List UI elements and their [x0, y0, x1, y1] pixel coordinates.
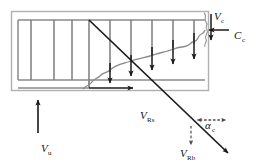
label-cc: C c: [234, 29, 245, 44]
label-vrb: V Rb: [180, 147, 196, 162]
label-alpha-c-subscript: c: [212, 126, 215, 134]
free-body-diagram-figure: V c C c V u V Rs V Rb α c: [0, 0, 258, 162]
label-alpha-c-symbol: α: [205, 119, 211, 131]
diagonal-crack-plane: [89, 20, 228, 153]
label-cc-symbol: C: [234, 29, 242, 41]
label-cc-subscript: c: [242, 36, 245, 44]
label-vu-subscript: u: [48, 149, 52, 157]
label-vrs: V Rs: [140, 109, 155, 124]
label-vu: V u: [41, 142, 52, 157]
label-vc-subscript: c: [221, 17, 224, 25]
label-vrb-subscript: Rb: [187, 154, 196, 162]
label-vrs-subscript: Rs: [147, 116, 155, 124]
label-vc: V c: [214, 10, 224, 25]
wall-inner-panel: [18, 20, 205, 80]
diagram-canvas: V c C c V u V Rs V Rb α c: [0, 0, 258, 162]
vertical-reinforcement-bars: [31, 20, 194, 88]
wall-base-line: [18, 80, 89, 88]
